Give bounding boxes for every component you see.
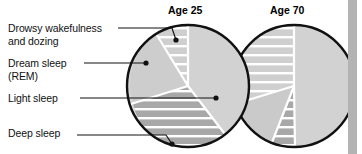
divider-70-bottom-b	[294, 86, 295, 148]
wedge-light-sleep-70	[294, 25, 355, 147]
dot-light	[213, 95, 218, 100]
dot-drowsy	[173, 37, 178, 42]
dot-deep	[169, 141, 174, 146]
pie-age-25	[127, 21, 270, 152]
legend-label-light-sleep: Light sleep	[8, 92, 58, 105]
chart-title-age-70: Age 70	[270, 4, 304, 16]
legend-label-rem-line2: (REM)	[8, 70, 38, 82]
right-margin-bar	[348, 0, 357, 154]
legend-label-dream-sleep-rem: Dream sleep(REM)	[8, 57, 66, 82]
legend-label-drowsy-line2: and dozing	[8, 35, 58, 47]
legend-label-drowsy-wakefulness: Drowsy wakefulnessand dozing	[8, 22, 102, 47]
dot-rem	[143, 60, 148, 65]
legend-label-deep-sleep: Deep sleep	[8, 127, 60, 140]
pie-age-70	[233, 24, 355, 148]
legend-label-drowsy-line1: Drowsy wakefulness	[8, 22, 102, 34]
legend-label-rem-line1: Dream sleep	[8, 57, 66, 69]
chart-title-age-25: Age 25	[168, 4, 202, 16]
